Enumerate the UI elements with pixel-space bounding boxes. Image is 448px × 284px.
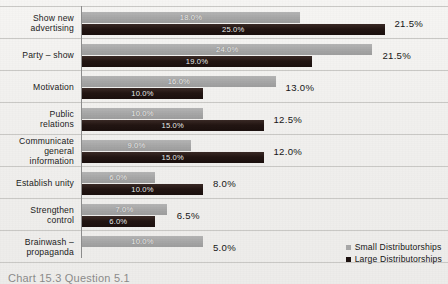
bar-small-distributorships[interactable]: 10.0% bbox=[82, 236, 203, 247]
bar-value-label: 15.0% bbox=[162, 121, 184, 130]
row-total-label: 13.0% bbox=[286, 82, 315, 93]
bar-large-distributorships[interactable]: 10.0% bbox=[82, 88, 203, 99]
bar-value-label: 15.0% bbox=[162, 153, 184, 162]
bar-large-distributorships[interactable]: 25.0% bbox=[82, 24, 385, 35]
bar-group: 18.0%25.0%21.5% bbox=[82, 7, 448, 38]
bar-value-label: 25.0% bbox=[222, 25, 244, 34]
bar-small-distributorships[interactable]: 24.0% bbox=[82, 44, 372, 55]
bar-large-distributorships[interactable]: 15.0% bbox=[82, 120, 264, 131]
row-total-label: 12.5% bbox=[274, 114, 303, 125]
bar-value-label: 16.0% bbox=[168, 77, 190, 86]
bar-group: 7.0%6.0%6.5% bbox=[82, 199, 448, 230]
bar-small-distributorships[interactable]: 7.0% bbox=[82, 204, 167, 215]
bar-small-distributorships[interactable]: 9.0% bbox=[82, 140, 191, 151]
legend-item-small[interactable]: Small Distributorships bbox=[346, 242, 442, 252]
bar-value-label: 24.0% bbox=[216, 45, 238, 54]
legend-item-large[interactable]: Large Distributorships bbox=[346, 254, 442, 264]
category-axis-line bbox=[81, 6, 82, 258]
bar-large-distributorships[interactable]: 6.0% bbox=[82, 216, 155, 227]
row-total-label: 21.5% bbox=[395, 18, 424, 29]
bar-small-distributorships[interactable]: 10.0% bbox=[82, 108, 203, 119]
bar-group: 10.0%15.0%12.5% bbox=[82, 103, 448, 134]
row-total-label: 21.5% bbox=[382, 50, 411, 61]
chart-row: Show newadvertising18.0%25.0%21.5% bbox=[0, 6, 448, 38]
bar-small-distributorships[interactable]: 16.0% bbox=[82, 76, 276, 87]
legend-swatch-large-icon bbox=[346, 257, 351, 262]
legend-label-large: Large Distributorships bbox=[355, 254, 442, 264]
row-total-label: 6.5% bbox=[177, 210, 200, 221]
legend-label-small: Small Distributorships bbox=[355, 242, 442, 252]
bar-value-label: 6.0% bbox=[109, 173, 127, 182]
bar-group: 16.0%10.0%13.0% bbox=[82, 71, 448, 102]
bar-value-label: 10.0% bbox=[131, 109, 153, 118]
bar-value-label: 10.0% bbox=[131, 185, 153, 194]
category-label: Publicrelations bbox=[0, 109, 74, 129]
bar-large-distributorships[interactable]: 10.0% bbox=[82, 184, 203, 195]
category-label: Motivation bbox=[0, 82, 74, 92]
bar-value-label: 19.0% bbox=[186, 57, 208, 66]
row-total-label: 5.0% bbox=[213, 242, 236, 253]
plot-area: Show newadvertising18.0%25.0%21.5%Party … bbox=[0, 6, 448, 262]
bar-value-label: 9.0% bbox=[127, 141, 145, 150]
legend-swatch-small-icon bbox=[346, 245, 351, 250]
bar-value-label: 18.0% bbox=[180, 13, 202, 22]
category-label: Strengthencontrol bbox=[0, 205, 74, 225]
bar-small-distributorships[interactable]: 18.0% bbox=[82, 12, 300, 23]
bar-group: 6.0%10.0%8.0% bbox=[82, 167, 448, 198]
chart-row: Motivation16.0%10.0%13.0% bbox=[0, 70, 448, 102]
chart-legend: Small Distributorships Large Distributor… bbox=[346, 242, 442, 264]
chart-row: Strengthencontrol7.0%6.0%6.5% bbox=[0, 198, 448, 230]
category-label: Establish unity bbox=[0, 178, 74, 188]
bar-value-label: 6.0% bbox=[109, 217, 127, 226]
bar-value-label: 10.0% bbox=[131, 89, 153, 98]
bar-large-distributorships[interactable]: 19.0% bbox=[82, 56, 312, 67]
row-total-label: 12.0% bbox=[274, 146, 303, 157]
chart-row: Party – show24.0%19.0%21.5% bbox=[0, 38, 448, 70]
chart-row: Publicrelations10.0%15.0%12.5% bbox=[0, 102, 448, 134]
category-label: Party – show bbox=[0, 50, 74, 60]
chart-container: Show newadvertising18.0%25.0%21.5%Party … bbox=[0, 0, 448, 284]
bar-group: 9.0%15.0%12.0% bbox=[82, 135, 448, 166]
bar-large-distributorships[interactable]: 15.0% bbox=[82, 152, 264, 163]
category-label: Brainwash –propaganda bbox=[0, 237, 74, 257]
bar-value-label: 7.0% bbox=[115, 205, 133, 214]
category-label: Communicategeneralinformation bbox=[0, 136, 74, 167]
chart-row: Establish unity6.0%10.0%8.0% bbox=[0, 166, 448, 198]
row-total-label: 8.0% bbox=[213, 178, 236, 189]
chart-row: Communicategeneralinformation9.0%15.0%12… bbox=[0, 134, 448, 166]
category-label: Show newadvertising bbox=[0, 13, 74, 33]
bar-value-label: 10.0% bbox=[131, 237, 153, 246]
bar-small-distributorships[interactable]: 6.0% bbox=[82, 172, 155, 183]
figure-caption: Chart 15.3 Question 5.1 bbox=[8, 272, 130, 284]
bar-group: 24.0%19.0%21.5% bbox=[82, 39, 448, 70]
